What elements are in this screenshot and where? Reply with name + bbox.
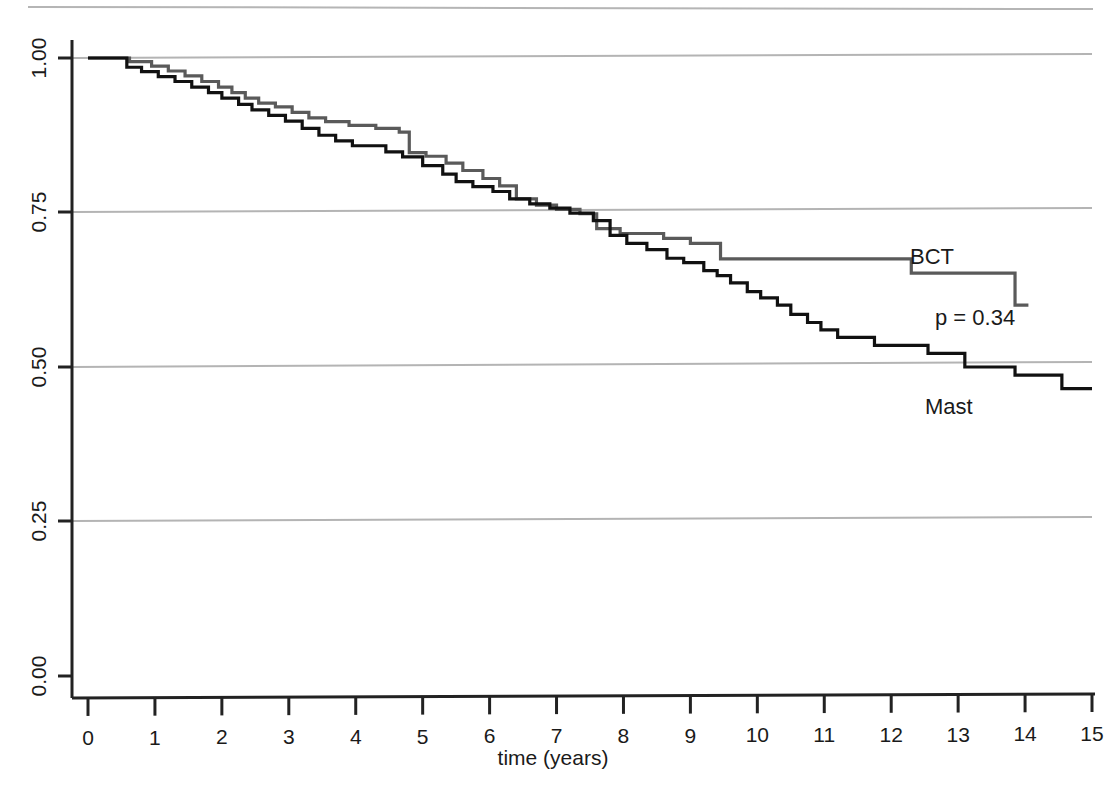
x-tick-label-14: 14 <box>1013 722 1037 745</box>
y-axis-ticks <box>58 58 72 676</box>
x-tick-label-12: 12 <box>880 723 903 746</box>
bct-series-label: BCT <box>910 244 954 269</box>
x-tick-label-13: 13 <box>946 723 969 746</box>
x-tick-label-5: 5 <box>417 725 429 748</box>
x-axis-tick-labels: 0123456789101112131415 <box>82 722 1104 749</box>
x-tick-label-2: 2 <box>216 725 228 748</box>
gridlines <box>72 54 1092 521</box>
y-tick-label-0.75: 0.75 <box>27 192 50 233</box>
axis-lines <box>72 40 1095 698</box>
x-axis-title: time (years) <box>498 746 609 769</box>
x-tick-label-1: 1 <box>149 726 161 749</box>
x-tick-label-0: 0 <box>82 726 94 749</box>
x-tick-label-11: 11 <box>813 723 835 746</box>
y-tick-label-0.25: 0.25 <box>27 501 50 542</box>
p-value-annotation: p = 0.34 <box>935 305 1015 330</box>
mast-series-label: Mast <box>925 394 973 419</box>
gridline-0.75 <box>72 208 1092 212</box>
x-tick-label-6: 6 <box>484 724 496 747</box>
x-tick-label-8: 8 <box>618 724 630 747</box>
series-line-bct <box>88 58 1028 305</box>
y-axis-tick-labels: 1.00 0.75 0.50 0.25 0.00 <box>27 38 50 697</box>
kaplan-meier-plot: 1.00 0.75 0.50 0.25 0.00 012345678910111… <box>0 0 1105 794</box>
gridline-0.50 <box>72 362 1092 367</box>
survival-chart-page: 1.00 0.75 0.50 0.25 0.00 012345678910111… <box>0 0 1105 794</box>
y-tick-label-0.00: 0.00 <box>27 656 50 697</box>
series-line-mast <box>88 58 1092 389</box>
gridline-1.00 <box>72 54 1092 58</box>
x-axis-line <box>72 694 1095 698</box>
x-tick-label-10: 10 <box>746 723 769 746</box>
series-group <box>88 58 1092 389</box>
y-tick-label-1.00: 1.00 <box>27 38 50 79</box>
y-tick-label-0.50: 0.50 <box>27 347 50 388</box>
gridline-0.25 <box>72 517 1092 521</box>
x-tick-label-3: 3 <box>283 725 295 748</box>
x-tick-label-9: 9 <box>685 724 697 747</box>
x-tick-label-4: 4 <box>350 725 362 748</box>
x-tick-label-15: 15 <box>1080 722 1103 745</box>
x-tick-label-7: 7 <box>551 724 563 747</box>
